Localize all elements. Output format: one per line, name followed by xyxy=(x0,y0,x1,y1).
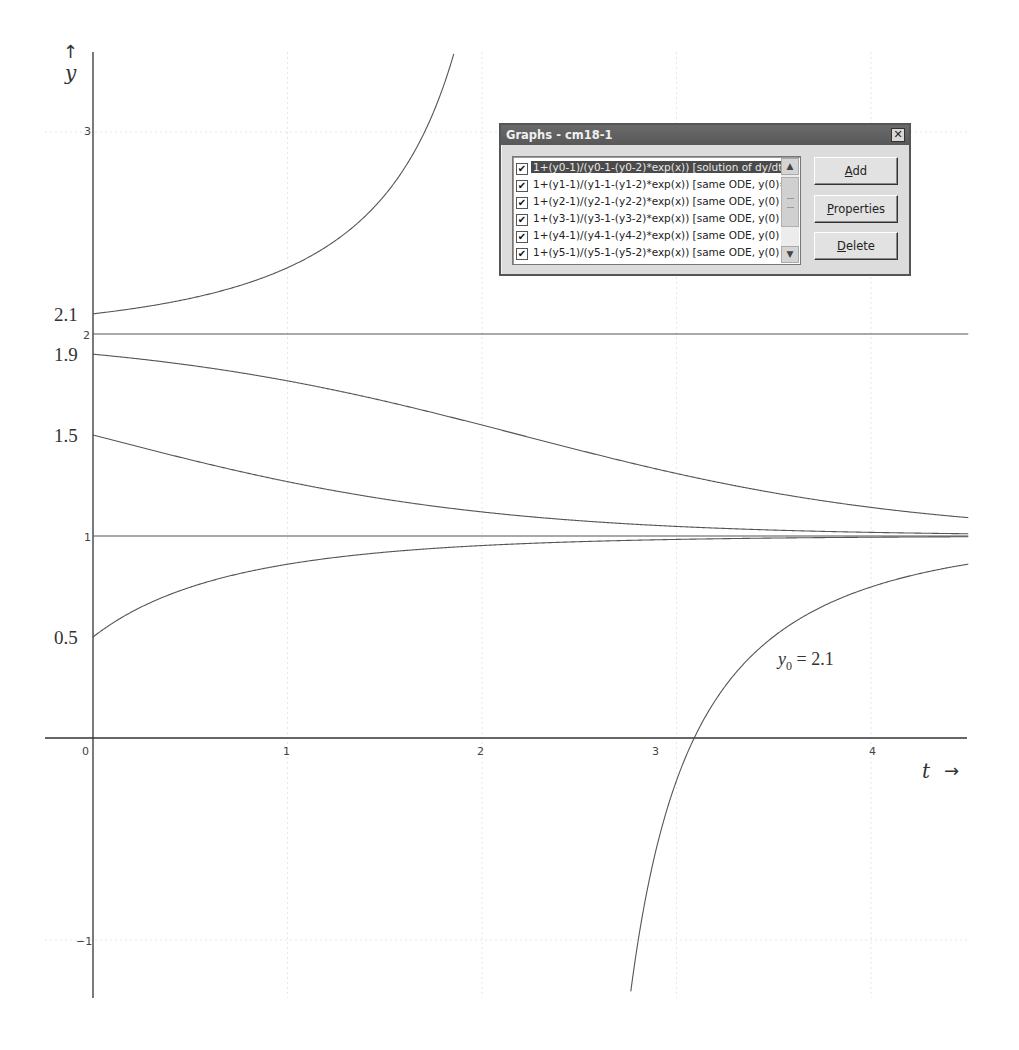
solution-curve xyxy=(93,354,968,517)
graphs-dialog: Graphs - cm18-1 ✕ ✔1+(y0-1)/(y0-1-(y0-2)… xyxy=(499,123,911,276)
dialog-title: Graphs - cm18-1 xyxy=(506,128,613,142)
checkbox[interactable]: ✔ xyxy=(516,197,528,209)
y-axis-arrow-icon: ↑ xyxy=(63,41,78,62)
checkbox[interactable]: ✔ xyxy=(516,231,528,243)
dialog-title-bar[interactable]: Graphs - cm18-1 ✕ xyxy=(501,125,909,145)
graph-formula: 1+(y4-1)/(y4-1-(y4-2)*exp(x)) [same ODE,… xyxy=(531,229,783,241)
checkbox[interactable]: ✔ xyxy=(516,163,528,175)
t-axis-label: t xyxy=(922,759,931,783)
graph-list-item[interactable]: ✔1+(y2-1)/(y2-1-(y2-2)*exp(x)) [same ODE… xyxy=(515,193,783,210)
y0-label-1-9: 1.9 xyxy=(54,344,78,365)
y-tick-3: 3 xyxy=(84,125,91,138)
y0-label-2-1: 2.1 xyxy=(54,304,78,325)
x-tick-0: 0 xyxy=(82,745,89,758)
checkbox[interactable]: ✔ xyxy=(516,248,528,260)
graph-formula: 1+(y3-1)/(y3-1-(y3-2)*exp(x)) [same ODE,… xyxy=(531,212,781,224)
scroll-down-icon[interactable]: ▼ xyxy=(781,246,799,263)
graph-formula: 1+(y1-1)/(y1-1-(y1-2)*exp(x)) [same ODE,… xyxy=(531,178,783,190)
add-button[interactable]: Add xyxy=(814,157,898,185)
graph-formula: 1+(y5-1)/(y5-1-(y5-2)*exp(x)) [same ODE,… xyxy=(531,246,781,258)
graph-list-item[interactable]: ✔1+(y5-1)/(y5-1-(y5-2)*exp(x)) [same ODE… xyxy=(515,244,783,261)
x-tick-1: 1 xyxy=(283,745,290,758)
graphs-listbox[interactable]: ✔1+(y0-1)/(y0-1-(y0-2)*exp(x)) [solution… xyxy=(512,156,801,265)
graph-list-item[interactable]: ✔1+(y0-1)/(y0-1-(y0-2)*exp(x)) [solution… xyxy=(515,159,783,176)
scrollbar-thumb[interactable] xyxy=(781,177,799,227)
delete-button[interactable]: Delete xyxy=(814,232,898,260)
y-axis-label: y xyxy=(64,61,77,85)
solution-curve xyxy=(93,435,968,534)
grip-icon xyxy=(787,198,794,208)
graph-list-item[interactable]: ✔1+(y4-1)/(y4-1-(y4-2)*exp(x)) [same ODE… xyxy=(515,227,783,244)
graph-formula: 1+(y0-1)/(y0-1-(y0-2)*exp(x)) [solution … xyxy=(531,161,783,173)
y0-label-0-5: 0.5 xyxy=(54,627,78,648)
list-scrollbar[interactable]: ▲ ▼ xyxy=(781,158,799,263)
x-tick-3: 3 xyxy=(652,745,659,758)
checkbox[interactable]: ✔ xyxy=(516,214,528,226)
curve-annotation: y0 = 2.1 xyxy=(776,649,834,673)
y-tick-2: 2 xyxy=(83,329,90,342)
x-tick-2: 2 xyxy=(477,745,484,758)
scroll-up-icon[interactable]: ▲ xyxy=(781,158,799,175)
solution-curve xyxy=(93,537,968,637)
y-tick-neg1: −1 xyxy=(76,935,92,948)
properties-button[interactable]: Properties xyxy=(814,195,898,223)
close-icon[interactable]: ✕ xyxy=(891,128,905,142)
y0-label-1-5: 1.5 xyxy=(54,425,78,446)
graph-list-item[interactable]: ✔1+(y1-1)/(y1-1-(y1-2)*exp(x)) [same ODE… xyxy=(515,176,783,193)
checkbox[interactable]: ✔ xyxy=(516,180,528,192)
graph-list-item[interactable]: ✔1+(y3-1)/(y3-1-(y3-2)*exp(x)) [same ODE… xyxy=(515,210,783,227)
y-tick-1: 1 xyxy=(84,531,91,544)
t-axis-arrow-icon: → xyxy=(944,760,959,781)
x-tick-4: 4 xyxy=(869,745,876,758)
graph-formula: 1+(y2-1)/(y2-1-(y2-2)*exp(x)) [same ODE,… xyxy=(531,195,783,207)
